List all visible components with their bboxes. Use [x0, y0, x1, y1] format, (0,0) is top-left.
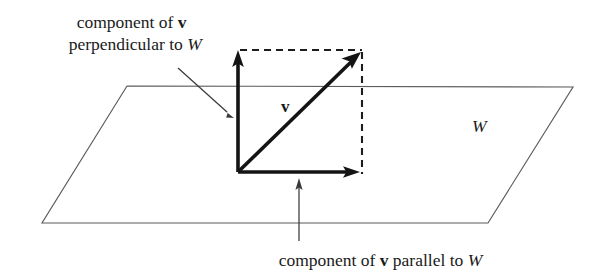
parallel-label-middle: parallel to [388, 250, 467, 270]
perpendicular-label-line2-subspace: W [187, 34, 203, 54]
perpendicular-label-line2: perpendicular to W [38, 34, 224, 54]
parallel-label-prefix: component of [279, 250, 380, 270]
vector-decomposition-figure: component of v perpendicular to W v W co… [0, 0, 600, 276]
plane-w-label: W [472, 116, 488, 136]
vector-v-label: v [281, 97, 290, 116]
perpendicular-label-line1: component of v [46, 12, 208, 32]
vector-v-shaft [239, 63, 351, 172]
parallel-label-subspace: W [468, 250, 484, 270]
perpendicular-label-line2-prefix: perpendicular to [69, 34, 188, 54]
top-leader-line [178, 68, 227, 112]
perpendicular-label-line1-prefix: component of [77, 12, 178, 32]
diagram-canvas: component of v perpendicular to W v W co… [0, 0, 600, 276]
parallel-label: component of v parallel to W [248, 250, 504, 270]
parallel-label-vector: v [380, 250, 389, 270]
perpendicular-label-line1-vector: v [178, 12, 187, 32]
